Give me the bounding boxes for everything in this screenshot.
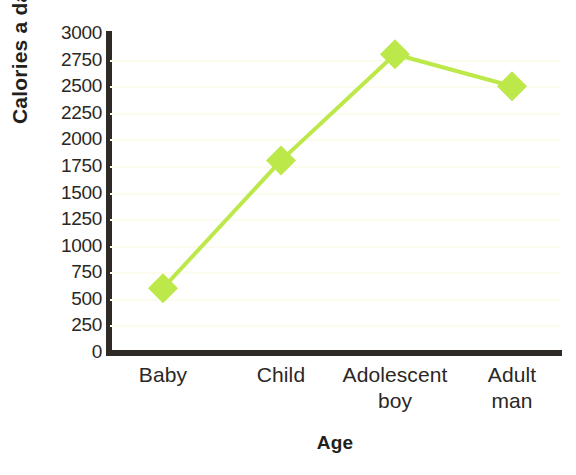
x-axis-tick-label: Adultman [457, 362, 567, 414]
x-axis-tick-label-line: man [457, 388, 567, 414]
series-markers [148, 39, 527, 303]
y-axis-tick-label: 2250 [34, 103, 102, 122]
y-axis-tick-label: 250 [34, 315, 102, 334]
data-series-line [110, 33, 560, 352]
y-axis-tick-label: 2000 [34, 129, 102, 148]
x-axis-tick-label-line: Baby [139, 363, 187, 386]
calories-by-age-line-chart: Calories a day 3000275025002250200017501… [0, 0, 576, 475]
x-axis-tick-labels: BabyChildAdolescentboyAdultman [96, 362, 576, 422]
y-axis-tick-label: 1000 [34, 236, 102, 255]
cut-off-title-remnant [40, 0, 540, 5]
data-point-marker [497, 71, 527, 101]
y-axis-tick-label: 2750 [34, 50, 102, 69]
x-axis-tick-label-line: Adolescent [343, 363, 448, 386]
y-axis-tick-label: 3000 [34, 23, 102, 42]
x-axis-tick-label-line: Adult [488, 363, 536, 386]
x-axis-tick-label-line: boy [310, 388, 480, 414]
x-axis-tick-label: Baby [103, 362, 223, 388]
plot-area [110, 33, 560, 352]
x-axis-title: Age [110, 432, 560, 454]
y-axis-tick-label: 1500 [34, 183, 102, 202]
y-axis-tick-label: 500 [34, 289, 102, 308]
x-axis-tick-label: Adolescentboy [310, 362, 480, 414]
y-axis-title: Calories a day [8, 0, 36, 124]
x-axis-tick-label-line: Child [257, 363, 305, 386]
y-axis-tick-labels: 3000275025002250200017501500125010007505… [34, 20, 102, 365]
y-axis-tick-label: 2500 [34, 76, 102, 95]
y-axis-tick-label: 1750 [34, 156, 102, 175]
y-axis-tick-label: 750 [34, 262, 102, 281]
y-axis-tick-label: 1250 [34, 209, 102, 228]
series-polyline [163, 54, 512, 288]
y-axis-tick-label: 0 [34, 342, 102, 361]
